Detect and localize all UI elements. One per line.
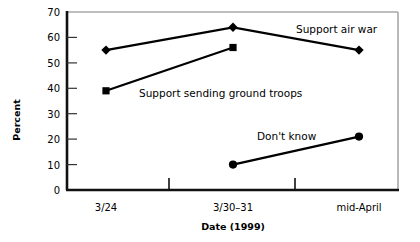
y-axis-title: Percent — [11, 99, 22, 141]
y-tick-label: 30 — [47, 109, 60, 120]
chart-container: 70 60 50 40 30 20 10 0 Percent 3/24 3/30… — [0, 0, 420, 242]
x-tick-label: mid-April — [336, 202, 381, 213]
y-axis-ticks — [67, 37, 77, 164]
series-annotation-ground-troops: Support sending ground troops — [139, 87, 302, 99]
x-tick-label: 3/30–31 — [213, 202, 253, 213]
y-axis-tick-labels: 70 60 50 40 30 20 10 0 — [47, 7, 60, 196]
series-line — [106, 48, 233, 91]
y-tick-label: 0 — [54, 185, 60, 196]
y-tick-label: 20 — [47, 134, 60, 145]
x-axis-ticks — [169, 178, 295, 190]
y-tick-label: 70 — [47, 7, 60, 18]
series-annotation-dont-know: Don't know — [257, 130, 317, 142]
data-point-marker — [101, 45, 110, 54]
line-chart: 70 60 50 40 30 20 10 0 Percent 3/24 3/30… — [0, 0, 420, 242]
data-point-marker — [102, 87, 109, 94]
x-axis-tick-labels: 3/24 3/30–31 mid-April — [95, 202, 382, 213]
x-axis-title: Date (1999) — [201, 221, 265, 232]
data-point-marker — [355, 133, 363, 141]
data-point-marker — [228, 23, 237, 32]
y-tick-label: 10 — [47, 160, 60, 171]
data-point-marker — [229, 161, 237, 169]
y-tick-label: 60 — [47, 32, 60, 43]
x-tick-label: 3/24 — [95, 202, 117, 213]
series-annotation-air-war: Support air war — [296, 23, 378, 35]
data-point-marker — [229, 44, 236, 51]
y-tick-label: 40 — [47, 83, 60, 94]
data-point-marker — [354, 45, 363, 54]
y-tick-label: 50 — [47, 58, 60, 69]
